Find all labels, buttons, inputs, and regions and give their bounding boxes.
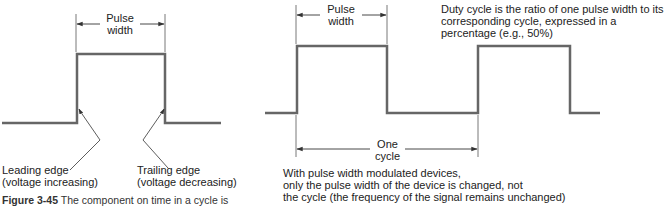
pwm-note-line1: With pulse width modulated devices, <box>283 167 566 179</box>
cycle-label-line1: One <box>370 138 405 150</box>
one-cycle-label: One cycle <box>370 138 405 162</box>
pulse-width-label-line2: width <box>100 24 140 36</box>
cycle-label-line2: cycle <box>370 150 405 162</box>
duty-cycle-line1: Duty cycle is the ratio of one pulse wid… <box>441 3 664 15</box>
figure-caption: Figure 3-45 The component on time in a c… <box>2 194 228 206</box>
leading-edge-pointer <box>70 111 100 170</box>
leading-edge-arrowhead <box>79 109 81 113</box>
duty-cycle-definition: Duty cycle is the ratio of one pulse wid… <box>441 3 664 39</box>
single-pulse-waveform <box>2 54 221 123</box>
trailing-edge-line2: (voltage decreasing) <box>137 176 237 188</box>
caption-text: The component on time in a cycle is <box>61 194 229 206</box>
pulse-train-waveform <box>265 46 600 113</box>
right-pulse-width-line2: width <box>321 15 361 27</box>
duty-cycle-line2: corresponding cycle, expressed in a <box>441 15 664 27</box>
pwm-note-line3: the cycle (the frequency of the signal r… <box>283 191 566 203</box>
left-pulse-width-label: Pulse width <box>100 12 140 36</box>
pwm-note-line2: only the pulse width of the device is ch… <box>283 179 566 191</box>
right-pulse-width-label: Pulse width <box>321 3 361 27</box>
trailing-edge-arrowhead <box>162 109 164 113</box>
trailing-edge-label: Trailing edge (voltage decreasing) <box>137 164 237 188</box>
leading-edge-line1: Leading edge <box>2 164 98 176</box>
pwm-note: With pulse width modulated devices, only… <box>283 167 566 203</box>
trailing-edge-line1: Trailing edge <box>137 164 237 176</box>
duty-cycle-line3: percentage (e.g., 50%) <box>441 27 664 39</box>
leading-edge-label: Leading edge (voltage increasing) <box>2 164 98 188</box>
right-pulse-width-line1: Pulse <box>321 3 361 15</box>
leading-edge-line2: (voltage increasing) <box>2 176 98 188</box>
figure-number: Figure 3-45 <box>2 194 58 206</box>
pulse-width-label-line1: Pulse <box>100 12 140 24</box>
